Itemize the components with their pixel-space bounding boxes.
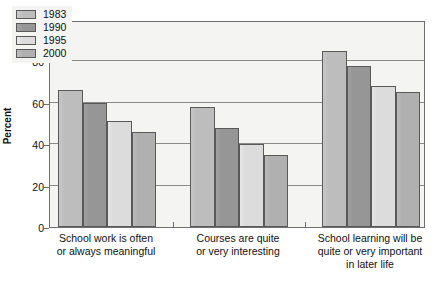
bar xyxy=(83,103,108,227)
legend-label: 2000 xyxy=(43,48,66,59)
legend-label: 1990 xyxy=(43,22,66,33)
y-axis-tick-label: 20 xyxy=(18,182,44,192)
legend-item[interactable]: 1995 xyxy=(16,34,66,47)
bar-chart: Percent 020406080100 1983199019952000 Sc… xyxy=(0,0,434,282)
bar xyxy=(239,144,264,227)
chart-legend: 1983199019952000 xyxy=(12,6,72,63)
legend-item[interactable]: 1983 xyxy=(16,8,66,21)
bar xyxy=(107,121,132,227)
plot-area xyxy=(49,21,425,228)
legend-label: 1995 xyxy=(43,35,66,46)
x-axis-category-labels: School work is oftenor always meaningful… xyxy=(49,232,425,282)
y-axis-tickmark xyxy=(44,228,49,229)
legend-swatch-icon xyxy=(16,23,36,32)
legend-swatch-icon xyxy=(16,49,36,58)
y-axis-tick-label: 60 xyxy=(18,99,44,109)
bar xyxy=(347,66,372,227)
bar xyxy=(132,132,157,227)
y-axis-tickmark xyxy=(44,145,49,146)
bar xyxy=(215,128,240,227)
bar xyxy=(396,92,421,227)
bar xyxy=(58,90,83,227)
x-axis-category-label: Courses are quiteor very interesting xyxy=(163,232,313,258)
x-axis-group-separator xyxy=(305,222,306,227)
legend-item[interactable]: 2000 xyxy=(16,47,66,60)
y-axis-tickmark xyxy=(44,104,49,105)
bar-group xyxy=(322,22,420,227)
x-axis-category-label: School work is oftenor always meaningful xyxy=(31,232,181,258)
bar xyxy=(264,155,289,227)
bar-group xyxy=(58,22,156,227)
legend-swatch-icon xyxy=(16,36,36,45)
legend-swatch-icon xyxy=(16,10,36,19)
legend-item[interactable]: 1990 xyxy=(16,21,66,34)
bar xyxy=(190,107,215,227)
bar xyxy=(322,51,347,227)
x-axis-category-label: School learning will bequite or very imp… xyxy=(295,232,434,271)
y-axis-tickmark xyxy=(44,187,49,188)
bar xyxy=(371,86,396,227)
bar-groups xyxy=(50,22,424,227)
legend-label: 1983 xyxy=(43,9,66,20)
y-axis-tick-label: 40 xyxy=(18,140,44,150)
x-axis-group-separator xyxy=(173,222,174,227)
bar-group xyxy=(190,22,288,227)
